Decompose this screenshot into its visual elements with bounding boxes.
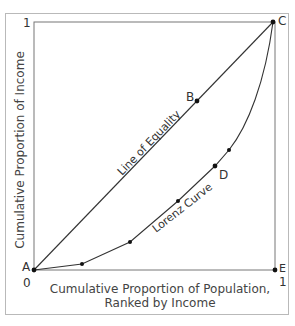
x-axis-label-line1: Cumulative Proportion of Population,	[40, 282, 280, 296]
lorenz-point	[227, 148, 231, 152]
label-d: D	[219, 168, 228, 182]
point-d	[213, 164, 218, 169]
x-axis-label: Cumulative Proportion of Population, Ran…	[40, 282, 280, 310]
point-c	[271, 20, 276, 25]
label-b: B	[186, 90, 194, 104]
point-a	[32, 268, 37, 273]
x-axis-label-line2: Ranked by Income	[40, 296, 280, 310]
x-tick-0: 0	[23, 276, 31, 290]
lorenz-annotation: Lorenz Curve	[150, 180, 215, 235]
equality-annotation: Line of Equality	[115, 107, 184, 178]
lorenz-point	[128, 240, 132, 244]
label-c: C	[278, 14, 286, 28]
lorenz-point	[80, 262, 84, 266]
lorenz-chart: Line of Equality Lorenz Curve	[0, 0, 295, 326]
x-tick-1: 1	[279, 275, 287, 289]
y-tick-1: 1	[23, 16, 31, 30]
y-axis-label: Cumulative Proportion of Income	[13, 50, 27, 250]
label-a: A	[22, 260, 30, 274]
label-e: E	[279, 262, 286, 275]
point-e	[273, 268, 278, 273]
point-b	[195, 99, 200, 104]
